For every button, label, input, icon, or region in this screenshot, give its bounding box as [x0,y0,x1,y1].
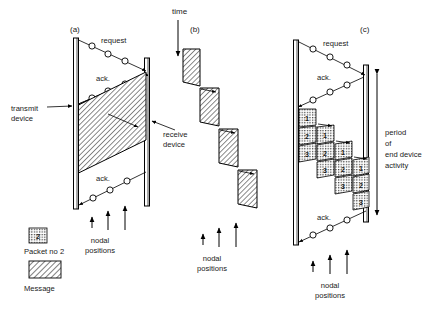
panel-b-message-block-4 [238,170,257,208]
panel-a-ack-upper-label: ack. [96,74,110,83]
protocol-timing-diagram: time (a) request ac [0,0,444,314]
packet-number: 3 [323,167,327,174]
panel-b-nodal-positions: nodal positions [197,223,236,273]
panel-b-message-blocks [183,49,257,208]
panel-c-ack-lower-label: ack. [317,213,331,222]
panel-c-period-annotation: period of end device activity [377,74,422,215]
panel-c-nodal-label-line1: nodal [321,281,340,290]
panel-b-label: (b) [190,25,200,34]
legend: 2 Packet no 2 Message [24,228,64,293]
legend-packet-number: 2 [36,233,40,240]
receive-device-label-line2: device [163,140,185,149]
period-label-line3: end device [385,150,422,159]
packet-number: 2 [323,150,327,157]
packet-number: 2 [341,166,345,173]
packet-number: 1 [359,165,363,172]
panel-c-request-path: request [299,39,365,75]
panel-a-label: (a) [70,25,80,34]
transmit-device-label-line1: transmit [11,104,39,113]
packet-number: 3 [359,199,363,206]
packet-number: 1 [305,115,309,122]
period-label-line1: period [385,128,406,137]
panel-c-packet-column-2: 1 2 3 [317,125,334,178]
panel-a-receive-device-annotation: receive device [152,121,187,149]
time-axis-label: time [172,7,188,16]
receive-device-pointer [152,121,175,130]
panel-b-nodal-label-line1: nodal [203,254,222,263]
panel-b-message-block-3 [219,129,238,167]
packet-number: 2 [305,133,309,140]
panel-a-nodal-label-line1: nodal [91,236,110,245]
panel-a: (a) request ack. [11,25,187,255]
panel-a-transmit-device-bar [74,38,79,209]
packet-number: 3 [305,151,309,158]
legend-message-swatch [29,261,61,278]
panel-b-message-block-2 [200,88,219,126]
panel-c: (c) request ack. [294,25,422,300]
panel-c-ack-upper-path: ack. [298,73,364,107]
panel-b-message-block-1 [183,49,200,86]
panel-a-message-block [79,72,147,173]
panel-c-packet-column-3: 1 2 3 [335,141,352,194]
panel-c-ack-lower-path: ack. [299,211,366,242]
panel-c-label: (c) [360,25,370,34]
receive-device-label-line1: receive [163,130,187,139]
packet-number: 1 [341,149,345,156]
panel-a-request-label: request [101,36,127,45]
panel-a-transmit-device-annotation: transmit device [11,104,72,123]
panel-b: (b) nodal positions [183,25,257,273]
panel-c-nodal-label-line2: positions [315,291,345,300]
panel-a-ack-lower-path: ack. [79,172,146,205]
packet-number: 2 [359,182,363,189]
legend-packet-caption: Packet no 2 [24,247,64,256]
figure-root: time (a) request ac [0,0,444,314]
legend-message-caption: Message [24,284,55,293]
panel-b-nodal-label-line2: positions [197,264,227,273]
period-label-line4: activity [385,161,408,170]
packet-number: 3 [341,183,345,190]
panel-a-ack-lower-label: ack. [96,174,110,183]
panel-a-request-path: request [79,36,147,71]
panel-a-nodal-label-line2: positions [85,246,115,255]
panel-c-ack-upper-label: ack. [317,73,331,82]
panel-c-nodal-positions: nodal positions [313,250,347,300]
period-label-line2: of [385,139,392,148]
transmit-device-pointer [47,106,72,107]
panel-c-packet-column-4: 1 2 3 [353,157,369,210]
transmit-device-label-line2: device [11,114,33,123]
panel-c-packet-column-1: 1 2 3 [299,109,316,162]
packet-number: 1 [323,132,327,139]
legend-packet-swatch: 2 [29,228,47,243]
panel-a-nodal-positions: nodal positions [85,206,125,255]
panel-c-packet-grid: 1 2 3 1 2 3 1 2 3 [299,109,369,210]
panel-c-request-label: request [323,39,349,48]
panel-c-transmit-device-bar [294,40,299,245]
